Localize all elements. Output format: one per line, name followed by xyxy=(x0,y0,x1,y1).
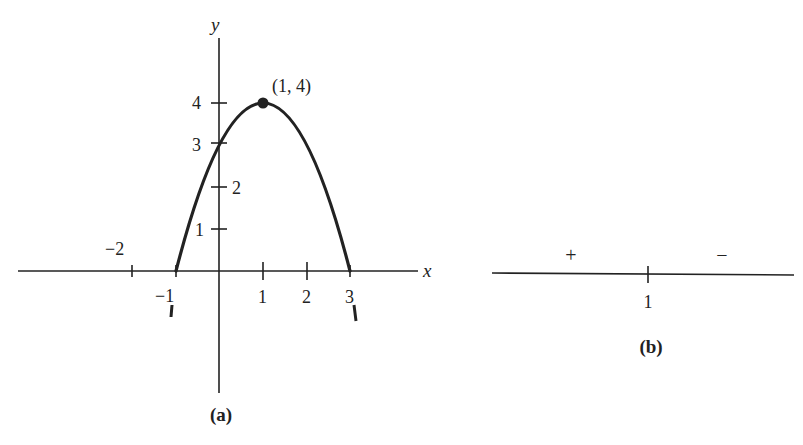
sign-negative: − xyxy=(716,244,727,266)
y-tick-label-2: 2 xyxy=(232,178,241,198)
caption-b: (b) xyxy=(639,336,662,358)
critical-point-label: 1 xyxy=(644,292,653,312)
caption-a: (a) xyxy=(210,404,232,426)
y-tick-label-1: 1 xyxy=(195,220,204,240)
figure-canvas: x y −2 −1 1 2 3 1 2 3 4 (1, xyxy=(0,0,803,445)
y-tick-label-4: 4 xyxy=(192,93,201,113)
figure-a: x y −2 −1 1 2 3 1 2 3 4 (1, xyxy=(18,14,432,426)
y-axis-label: y xyxy=(209,14,220,35)
y-tick-label-3: 3 xyxy=(192,135,201,155)
x-tick-label-neg1: −1 xyxy=(155,286,174,306)
x-axis-label: x xyxy=(422,260,432,281)
vertex-point xyxy=(258,98,269,109)
figure-b: 1 + − (b) xyxy=(492,244,794,358)
x-tick-label-neg2: −2 xyxy=(105,239,124,259)
x-tick-label-1: 1 xyxy=(258,287,267,307)
root-bar-left xyxy=(171,305,172,317)
root-bar-right xyxy=(354,305,356,321)
number-line xyxy=(492,273,794,275)
sign-positive: + xyxy=(565,244,576,266)
x-tick-label-3: 3 xyxy=(345,287,354,307)
vertex-label: (1, 4) xyxy=(272,76,311,97)
parabola-curve xyxy=(176,103,350,271)
x-tick-label-2: 2 xyxy=(302,287,311,307)
